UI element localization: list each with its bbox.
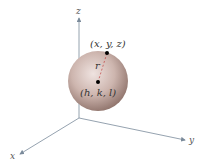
x-axis [20,118,79,154]
center-label: (h, k, l) [80,87,116,98]
surface-point [105,51,109,55]
diagram-canvas [0,0,205,166]
y-axis [79,118,185,140]
surface-point-label: (x, y, z) [90,38,126,49]
x-axis-label: x [10,151,15,161]
radius-label: r [95,60,100,71]
z-axis-label: z [76,6,81,16]
sphere-diagram: z x y (x, y, z) r (h, k, l) [0,0,205,166]
y-axis-label: y [189,135,194,145]
center-point [96,80,100,84]
